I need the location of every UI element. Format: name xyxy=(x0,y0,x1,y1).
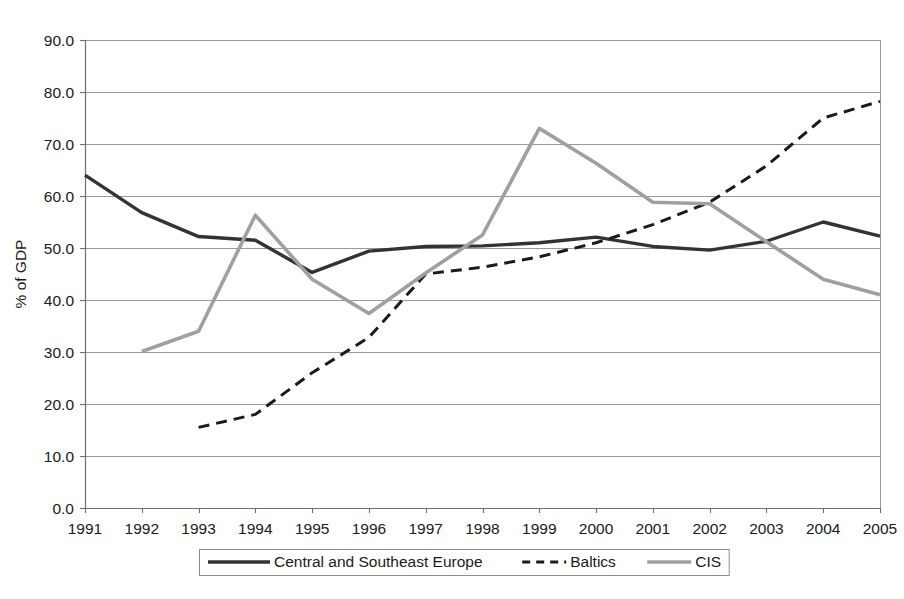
x-tick-label-1995: 1995 xyxy=(295,520,329,537)
y-tick-label-80.0: 80.0 xyxy=(44,84,75,101)
y-tick-label-0.0: 0.0 xyxy=(52,500,74,517)
legend-label-central-and-southeast-europe: Central and Southeast Europe xyxy=(274,553,483,570)
y-tick-label-10.0: 10.0 xyxy=(44,448,75,465)
y-tick-label-40.0: 40.0 xyxy=(44,292,75,309)
y-tick-label-90.0: 90.0 xyxy=(44,32,75,49)
x-tick-label-2002: 2002 xyxy=(692,520,726,537)
x-tick-label-1996: 1996 xyxy=(352,520,386,537)
y-axis-title-text: % of GDP xyxy=(12,240,29,309)
y-tick-label-20.0: 20.0 xyxy=(44,396,75,413)
x-tick-label-2004: 2004 xyxy=(806,520,841,537)
chart-legend: Central and Southeast EuropeBalticsCIS xyxy=(200,550,730,576)
y-axis-title: % of GDP xyxy=(12,240,29,309)
x-tick-label-1993: 1993 xyxy=(181,520,215,537)
x-tick-label-1991: 1991 xyxy=(68,520,102,537)
legend-label-cis: CIS xyxy=(695,553,721,570)
x-tick-label-2005: 2005 xyxy=(863,520,897,537)
y-tick-label-60.0: 60.0 xyxy=(44,188,75,205)
y-tick-label-50.0: 50.0 xyxy=(44,240,75,257)
x-tick-label-2001: 2001 xyxy=(636,520,670,537)
x-tick-label-2003: 2003 xyxy=(749,520,783,537)
figure-root: 0.010.020.030.040.050.060.070.080.090.0 … xyxy=(0,0,904,599)
x-axis-tick-labels: 1991199219931994199519961997199819992000… xyxy=(68,520,897,537)
line-chart: 0.010.020.030.040.050.060.070.080.090.0 … xyxy=(0,0,904,599)
x-tick-label-1992: 1992 xyxy=(125,520,159,537)
legend-label-baltics: Baltics xyxy=(570,553,616,570)
chart-background xyxy=(0,0,904,599)
x-tick-label-1994: 1994 xyxy=(238,520,273,537)
x-tick-label-2000: 2000 xyxy=(579,520,614,537)
x-tick-label-1999: 1999 xyxy=(522,520,556,537)
y-tick-label-30.0: 30.0 xyxy=(44,344,75,361)
y-tick-label-70.0: 70.0 xyxy=(44,136,75,153)
x-tick-label-1998: 1998 xyxy=(465,520,499,537)
x-tick-label-1997: 1997 xyxy=(408,520,442,537)
